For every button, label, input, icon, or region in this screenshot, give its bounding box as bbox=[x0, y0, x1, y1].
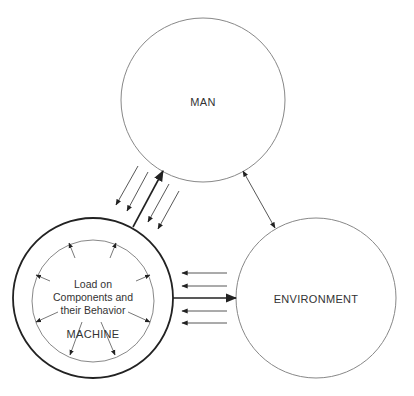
man-to-machine-arrows bbox=[116, 166, 179, 229]
environment-label: ENVIRONMENT bbox=[266, 293, 366, 305]
machine-inner-line-3: their Behavior bbox=[43, 304, 143, 317]
machine-inner-line-2: Components and bbox=[43, 291, 143, 304]
machine-inner-text: Load on Components and their Behavior bbox=[43, 278, 143, 317]
man-environment-bidirectional-line bbox=[243, 171, 275, 228]
machine-to-man-line bbox=[133, 171, 163, 227]
machine-inner-line-1: Load on bbox=[43, 278, 143, 291]
machine-label: MACHINE bbox=[58, 328, 128, 340]
man-label: MAN bbox=[183, 96, 223, 108]
